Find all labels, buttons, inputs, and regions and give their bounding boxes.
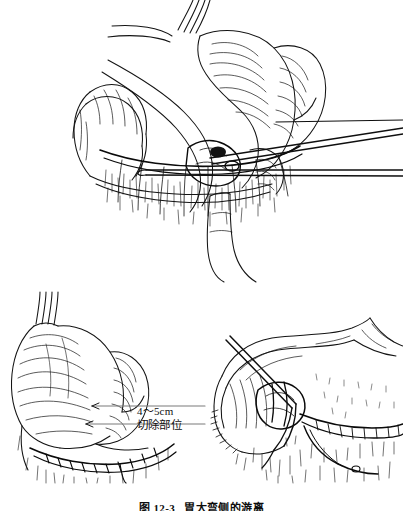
figure-caption: 图 12-3胃大弯侧的游离	[0, 499, 403, 511]
illustration-page: 4～5cm 切除部位 图 12-3胃大弯侧的游离	[0, 0, 403, 511]
vessel-ligation-detail	[196, 318, 403, 483]
figure-number: 图 12-3	[139, 502, 175, 511]
main-operative-view	[60, 0, 403, 282]
resection-extent-diagram	[0, 288, 205, 483]
figure-title: 胃大弯侧的游离	[184, 502, 264, 511]
